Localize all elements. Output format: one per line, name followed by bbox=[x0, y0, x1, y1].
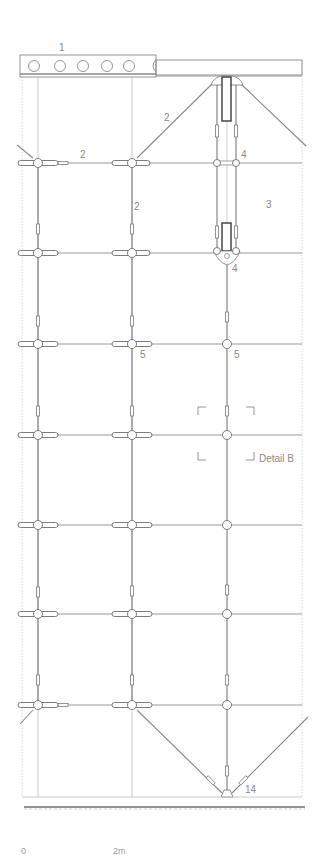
facade-elevation-drawing: 1 2 2 2 3 4 4 5 5 14 Detail B bbox=[0, 0, 321, 858]
ground-anchor bbox=[221, 790, 233, 797]
perforated-beam bbox=[20, 55, 302, 77]
label-clamp-right: 5 bbox=[234, 349, 240, 360]
ground-line bbox=[22, 797, 305, 809]
scale-bar-end: 2m bbox=[113, 846, 126, 856]
label-node-bottom: 4 bbox=[232, 263, 238, 274]
turnbuckles bbox=[37, 125, 238, 776]
label-clamp-left: 5 bbox=[140, 349, 146, 360]
label-cable-vertical: 2 bbox=[134, 201, 140, 212]
callout-labels: 1 2 2 2 3 4 4 5 5 14 Detail B bbox=[59, 42, 294, 795]
label-cable-horizontal: 2 bbox=[80, 149, 86, 160]
horizontal-cables bbox=[38, 163, 302, 705]
cable-nodes bbox=[18, 159, 240, 710]
label-cable-diag: 2 bbox=[164, 112, 170, 123]
frame-lines bbox=[22, 60, 302, 797]
label-ground-anchor: 14 bbox=[245, 784, 257, 795]
label-node-top: 4 bbox=[241, 149, 247, 160]
label-glass-panel: 3 bbox=[266, 199, 272, 210]
label-beam: 1 bbox=[59, 42, 65, 53]
scale-bar-start: 0 bbox=[21, 846, 26, 856]
label-detail-b: Detail B bbox=[259, 453, 294, 464]
diagonal-stays bbox=[17, 84, 308, 793]
